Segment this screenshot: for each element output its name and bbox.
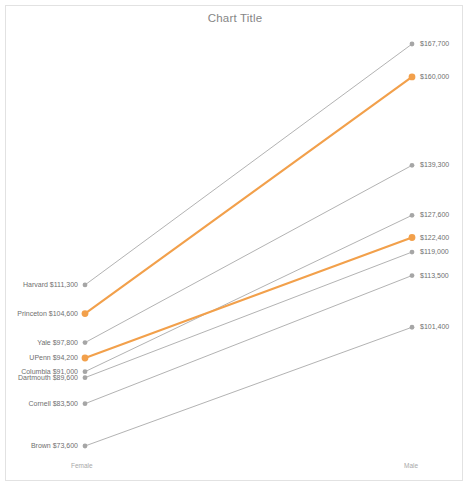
data-point-marker[interactable] [410,213,415,218]
slope-line [85,77,412,314]
data-point-marker[interactable] [409,73,416,80]
data-point-marker[interactable] [410,42,415,47]
data-point-marker[interactable] [409,234,416,241]
slope-line [85,327,412,446]
point-label-right-dartmouth: $119,000 [420,248,449,256]
data-point-marker[interactable] [83,283,88,288]
data-point-marker[interactable] [410,163,415,168]
point-label-right-upenn: $122,400 [420,234,449,242]
slope-line [85,44,412,285]
data-point-marker[interactable] [82,355,89,362]
point-label-right-harvard: $167,700 [420,40,449,48]
point-label-left-princeton: Princeton $104,600 [17,310,78,318]
point-label-right-brown: $101,400 [420,323,449,331]
point-label-right-yale: $139,300 [420,161,449,169]
data-point-marker[interactable] [83,401,88,406]
point-label-right-cornell: $113,500 [420,272,449,280]
slope-marker-group [82,42,416,449]
slope-line [85,252,412,378]
slope-chart-plot [0,0,470,489]
point-label-left-yale: Yale $97,800 [37,339,78,347]
point-label-left-harvard: Harvard $111,300 [23,281,78,289]
point-label-right-princeton: $160,000 [420,73,449,81]
point-label-right-columbia: $127,600 [420,211,449,219]
slope-line-group [85,44,412,446]
point-label-left-cornell: Cornell $83,500 [29,400,78,408]
data-point-marker[interactable] [83,375,88,380]
data-point-marker[interactable] [410,250,415,255]
data-point-marker[interactable] [83,340,88,345]
slope-line [85,165,412,342]
point-label-left-dartmouth: Dartmouth $89,600 [18,374,78,382]
data-point-marker[interactable] [410,325,415,330]
slope-line [85,215,412,371]
axis-tick-female: Female [71,462,93,469]
axis-tick-male: Male [404,462,418,469]
data-point-marker[interactable] [83,369,88,374]
point-label-left-brown: Brown $73,600 [31,442,78,450]
point-label-left-upenn: UPenn $94,200 [29,354,78,362]
data-point-marker[interactable] [410,273,415,278]
data-point-marker[interactable] [83,444,88,449]
data-point-marker[interactable] [82,310,89,317]
